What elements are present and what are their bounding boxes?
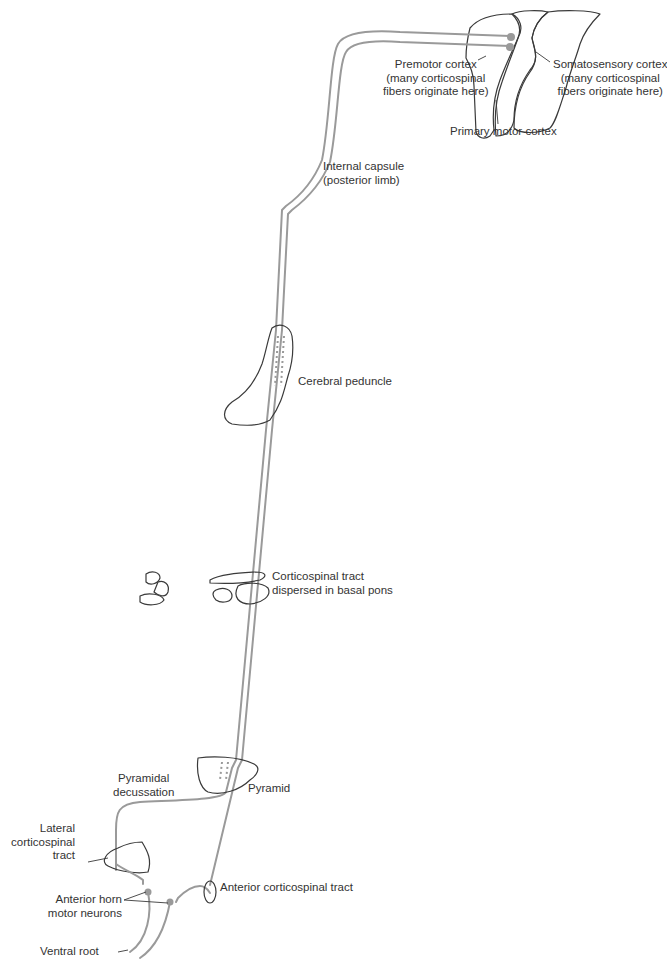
lateral-fiber-branch <box>116 864 143 884</box>
label-anterior-tract: Anterior corticospinal tract <box>220 881 353 895</box>
pons-segment <box>154 581 168 595</box>
label-basal-pons: Corticospinal tract dispersed in basal p… <box>272 570 393 597</box>
lateral-tract-shape <box>104 842 149 873</box>
anterior-horn-leader-2 <box>124 900 168 903</box>
label-anterior-horn: Anterior horn motor neurons <box>40 893 122 920</box>
cerebral-peduncle-shape <box>225 325 293 425</box>
ventral-root-leader <box>118 950 128 952</box>
label-pyramidal-decussation: Pyramidal decussation <box>113 772 174 799</box>
motor-origin-neuron <box>506 43 514 51</box>
label-premotor-cortex: Premotor cortex (many corticospinal fibe… <box>383 58 488 99</box>
leader-lines <box>88 52 550 952</box>
label-pyramid: Pyramid <box>248 782 290 796</box>
label-primary-motor-cortex: Primary motor cortex <box>450 125 557 139</box>
corticospinal-diagram <box>0 0 667 968</box>
somatosensory-leader <box>536 52 550 62</box>
label-ventral-root: Ventral root <box>40 945 99 959</box>
label-internal-capsule: Internal capsule (posterior limb) <box>323 160 404 187</box>
premotor-origin-neuron <box>507 33 515 41</box>
label-lateral-tract: Lateral corticospinal tract <box>5 822 75 863</box>
pyramid-fibers <box>220 762 228 780</box>
ventral-root-2 <box>140 902 170 958</box>
anterior-horn-leader-1 <box>124 892 146 900</box>
label-somatosensory-cortex: Somatosensory cortex (many corticospinal… <box>553 58 667 99</box>
tract-fiber-upper <box>116 31 511 870</box>
pons-segment <box>210 572 265 583</box>
label-cerebral-peduncle: Cerebral peduncle <box>298 375 392 389</box>
descending-tract <box>116 31 515 885</box>
pons-segment <box>140 594 164 605</box>
pons-segment <box>213 588 232 602</box>
